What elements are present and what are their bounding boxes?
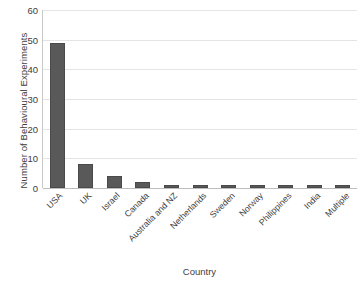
x-label-slot: USA (42, 189, 71, 259)
x-label-slot: UK (71, 189, 100, 259)
x-label-slot: Netherlands (185, 189, 214, 259)
x-label-slot: Multiple (328, 189, 357, 259)
y-axis-tick-label: 40 (16, 64, 38, 75)
bar-slot (328, 10, 357, 188)
bar[interactable] (164, 185, 179, 188)
bar[interactable] (335, 185, 350, 188)
bar-series (43, 10, 357, 188)
bar-chart: Number of Behavioural Experiments 010203… (0, 0, 362, 294)
bar-slot (214, 10, 243, 188)
x-label-slot: India (300, 189, 329, 259)
y-axis-tick-label: 60 (16, 5, 38, 16)
y-axis-tick-label: 30 (16, 94, 38, 105)
bar-slot (43, 10, 72, 188)
y-axis-tick-label: 50 (16, 34, 38, 45)
bar[interactable] (278, 185, 293, 188)
y-axis-tick-label: 10 (16, 153, 38, 164)
bar[interactable] (50, 43, 65, 188)
bar-slot (100, 10, 129, 188)
bar[interactable] (193, 185, 208, 188)
x-axis-tick-label: Israel (100, 191, 122, 213)
y-axis-tick-label: 0 (16, 183, 38, 194)
bar-slot (129, 10, 158, 188)
bar[interactable] (135, 182, 150, 188)
bar-slot (300, 10, 329, 188)
x-label-slot: Philippines (271, 189, 300, 259)
bar-slot (271, 10, 300, 188)
x-axis-tick-label: India (302, 191, 322, 211)
bar-slot (243, 10, 272, 188)
bar[interactable] (107, 176, 122, 188)
x-axis-tick-label: USA (45, 191, 65, 211)
bar-slot (72, 10, 101, 188)
y-axis-tick-label: 20 (16, 123, 38, 134)
bar[interactable] (250, 185, 265, 188)
x-axis-tick-labels: USAUKIsraelCanadaAustralia and NZNetherl… (42, 189, 357, 259)
bar[interactable] (307, 185, 322, 188)
x-label-slot: Sweden (214, 189, 243, 259)
bar[interactable] (221, 185, 236, 188)
bar[interactable] (78, 164, 93, 188)
x-axis-title: Country (42, 266, 357, 277)
x-label-slot: Israel (99, 189, 128, 259)
bar-slot (186, 10, 215, 188)
x-axis-tick-label: UK (78, 191, 94, 207)
y-axis-tick-labels: 0102030405060 (16, 10, 38, 188)
bar-slot (157, 10, 186, 188)
plot-area (42, 10, 357, 188)
